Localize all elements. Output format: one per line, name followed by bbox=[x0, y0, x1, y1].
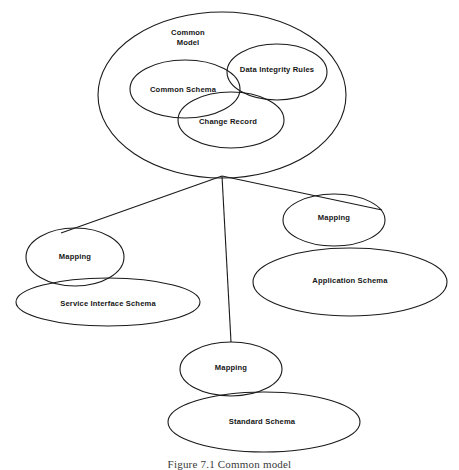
ellipse-data-integrity-rules bbox=[227, 44, 327, 100]
ellipse-change-record bbox=[178, 92, 284, 148]
ellipse-service-interface-schema bbox=[16, 278, 200, 326]
ellipse-group bbox=[16, 12, 447, 452]
ellipse-mapping-right bbox=[283, 194, 385, 246]
connector-to-mapping-left bbox=[61, 176, 222, 233]
ellipse-mapping-bottom bbox=[180, 342, 282, 396]
figure-caption: Figure 7.1 Common model bbox=[0, 458, 459, 470]
ellipse-application-schema bbox=[253, 248, 447, 316]
ellipse-mapping-left bbox=[26, 228, 124, 286]
connector-to-mapping-bottom bbox=[222, 176, 231, 342]
ellipse-standard-schema bbox=[168, 392, 360, 452]
